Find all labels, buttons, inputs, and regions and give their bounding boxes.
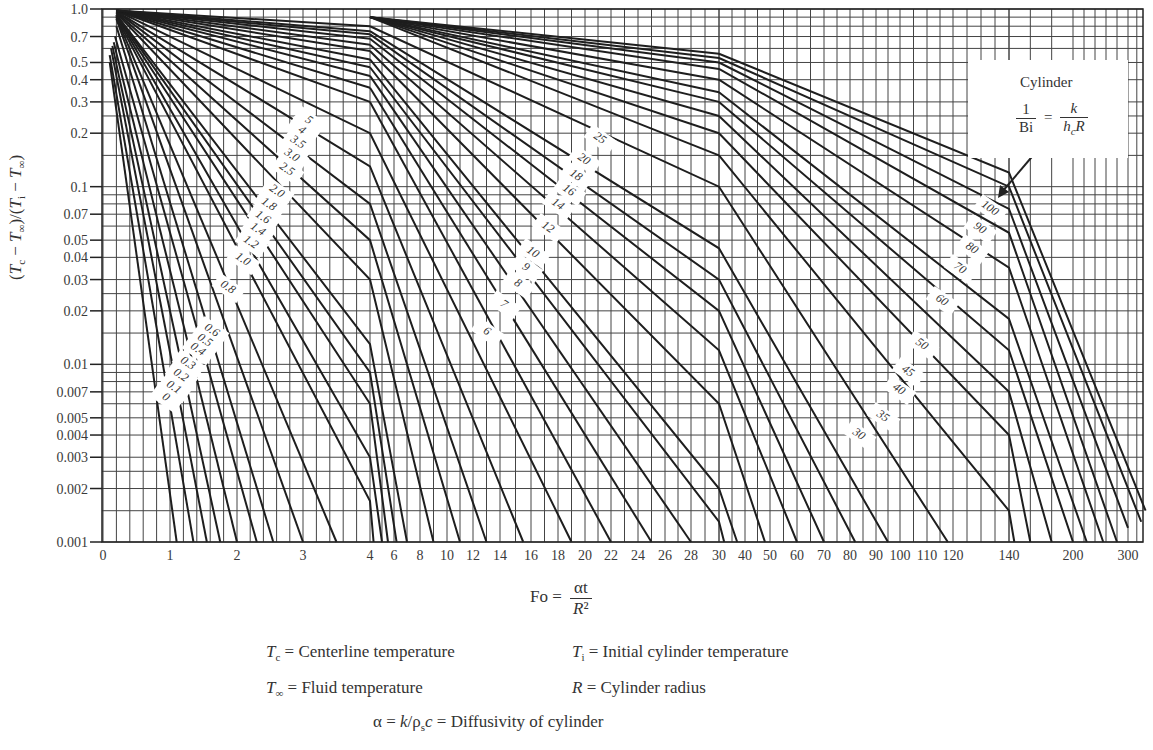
y-tick-label: 0.005 xyxy=(57,411,89,426)
x-tick-label: 0 xyxy=(100,548,107,563)
curve-25 xyxy=(370,26,948,542)
x-tick-label: 8 xyxy=(417,548,424,563)
x-tick-label: 80 xyxy=(843,548,857,563)
x-tick-label: 60 xyxy=(790,548,804,563)
y-tick-label: 0.3 xyxy=(71,95,89,110)
legend-eq: = xyxy=(1044,109,1052,125)
x-tick-label: 70 xyxy=(817,548,831,563)
y-tick-label: 0.03 xyxy=(64,273,89,288)
x-axis-label-num: αt xyxy=(570,578,592,599)
x-tick-label: 200 xyxy=(1063,548,1084,563)
y-tick-label: 0.007 xyxy=(57,385,89,400)
curve-30 xyxy=(719,155,1014,542)
x-tick-label: 10 xyxy=(440,548,454,563)
y-tick-label: 0.003 xyxy=(57,450,89,465)
x-tick-label: 4 xyxy=(367,548,374,563)
legend-lhs-fraction: 1 Bi xyxy=(1016,101,1036,136)
y-axis-ticks: 1.00.70.50.40.30.20.10.070.050.040.030.0… xyxy=(57,2,103,550)
x-tick-label: 90 xyxy=(869,548,883,563)
definition-tinf: T∞ = Fluid temperature xyxy=(266,678,423,699)
curve-40 xyxy=(719,116,1052,542)
legend-lhs-num: 1 xyxy=(1016,101,1036,119)
x-tick-label: 26 xyxy=(658,548,672,563)
y-tick-label: 0.5 xyxy=(71,55,89,70)
y-tick-label: 0.002 xyxy=(57,482,89,497)
curve-1.8 xyxy=(116,15,396,542)
y-tick-label: 0.4 xyxy=(71,73,89,88)
y-tick-label: 0.05 xyxy=(64,233,89,248)
x-tick-label: 100 xyxy=(890,548,911,563)
definition-alpha: α = k/ρsc = Diffusivity of cylinder xyxy=(373,712,603,733)
legend-rhs-fraction: k hcR xyxy=(1060,100,1088,137)
x-tick-label: 30 xyxy=(712,548,726,563)
legend-lhs-den: Bi xyxy=(1016,119,1036,136)
y-tick-label: 0.004 xyxy=(57,428,89,443)
x-tick-label: 300 xyxy=(1118,548,1139,563)
y-tick-label: 0.1 xyxy=(71,180,89,195)
x-tick-label: 20 xyxy=(578,548,592,563)
curve-labels: 00.10.20.30.40.50.60.81.01.21.41.61.82.0… xyxy=(160,112,1002,443)
x-tick-label: 110 xyxy=(917,548,937,563)
x-tick-label: 14 xyxy=(493,548,507,563)
definition-ti: Ti = Initial cylinder temperature xyxy=(572,642,789,663)
y-tick-label: 0.01 xyxy=(64,357,89,372)
x-tick-label: 50 xyxy=(763,548,777,563)
x-tick-label: 12 xyxy=(466,548,480,563)
definition-r: R = Cylinder radius xyxy=(572,678,706,698)
x-tick-label: 40 xyxy=(738,548,752,563)
legend-rhs-den: hcR xyxy=(1060,118,1088,137)
x-tick-label: 6 xyxy=(391,548,398,563)
legend-formula: 1 Bi = k hcR xyxy=(1012,100,1092,137)
legend-rhs-num-text: k xyxy=(1071,100,1078,116)
x-tick-label: 24 xyxy=(631,548,645,563)
x-axis-label-lhs: Fo xyxy=(530,587,548,606)
x-tick-label: 140 xyxy=(999,548,1020,563)
x-tick-label: 28 xyxy=(684,548,698,563)
curve-4 xyxy=(116,11,523,542)
x-tick-label: 3 xyxy=(300,548,307,563)
y-tick-label: 0.7 xyxy=(71,30,89,45)
x-axis-label-eq: = xyxy=(552,587,562,606)
curve-18 xyxy=(370,34,855,542)
legend-rhs-num: k xyxy=(1060,100,1088,118)
legend-title: Cylinder xyxy=(1020,74,1073,91)
y-tick-label: 1.0 xyxy=(71,2,89,17)
curve-12 xyxy=(370,51,765,542)
x-tick-label: 18 xyxy=(551,548,565,563)
x-axis-ticks: 0123468101214161820222426283040506070809… xyxy=(100,548,1139,563)
y-tick-label: 0.02 xyxy=(64,304,89,319)
x-axis-label: Fo = αt R² xyxy=(530,578,596,619)
curve-2.0 xyxy=(116,15,407,542)
x-tick-label: 1 xyxy=(167,548,174,563)
definition-tc: Tc = Centerline temperature xyxy=(266,642,455,663)
x-axis-label-den: R² xyxy=(570,599,592,619)
y-tick-label: 0.04 xyxy=(64,250,89,265)
x-tick-label: 22 xyxy=(604,548,618,563)
curve-9 xyxy=(370,67,724,542)
y-axis-label: (Tc − T∞)/(Ti − T∞) xyxy=(6,155,27,280)
legend-rhs-den-text: hcR xyxy=(1063,118,1085,134)
curve-5 xyxy=(116,11,571,542)
y-tick-label: 0.001 xyxy=(57,535,89,550)
x-axis-label-fraction: αt R² xyxy=(570,578,592,619)
y-tick-label: 0.2 xyxy=(71,126,89,141)
x-tick-label: 2 xyxy=(234,548,241,563)
x-tick-label: 16 xyxy=(524,548,538,563)
x-tick-label: 120 xyxy=(943,548,964,563)
y-tick-label: 0.07 xyxy=(64,207,89,222)
